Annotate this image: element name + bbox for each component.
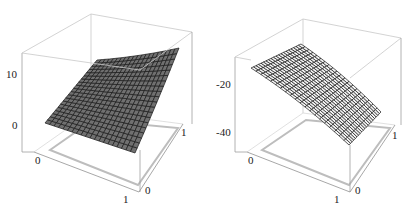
box-top-front-edge: [235, 57, 251, 60]
z-tick-label: -40: [216, 126, 231, 138]
x-tick-label: 0: [35, 154, 41, 166]
x-tick-label: 0: [248, 154, 254, 166]
surface-mesh: [45, 48, 179, 153]
y-tick-label: 1: [181, 126, 187, 138]
z-tick-label: 10: [6, 68, 18, 80]
box-floor-front: [247, 125, 395, 192]
y-tick-label: 0: [145, 184, 151, 196]
box-top-back-edges: [235, 19, 401, 57]
surface-plot-2: -20 -40 0 1 0 1: [216, 19, 401, 205]
box-top-right-edge: [350, 38, 401, 78]
surface-mesh: [251, 44, 381, 145]
floor-shadow: [262, 120, 390, 185]
surface-plot-1: 10 0 0 1 0 1: [6, 14, 192, 205]
z-tick-label: -20: [216, 78, 231, 90]
box-top-back-edges: [22, 14, 192, 53]
x-tick-label: 1: [123, 193, 129, 205]
y-tick-label: 0: [355, 184, 361, 196]
surface-plots: 10 0 0 1 0 1 -20 -40 0 1 0 1: [0, 0, 409, 211]
x-tick-label: 1: [334, 193, 340, 205]
z-tick-label: 0: [12, 119, 18, 131]
y-tick-label: 1: [392, 129, 398, 141]
